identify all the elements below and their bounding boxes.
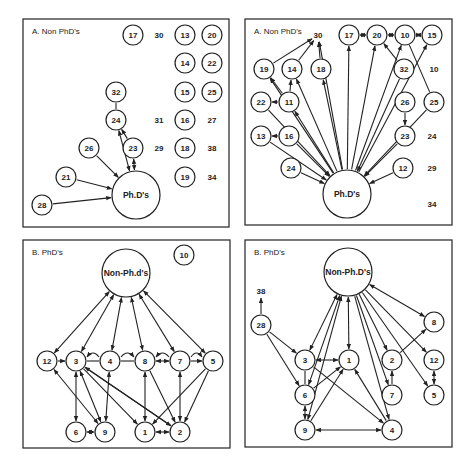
- node-25: 25: [424, 92, 444, 112]
- edge-32-20: [384, 44, 397, 61]
- edge-4-8: [121, 353, 134, 357]
- edge-2-3: [85, 367, 171, 426]
- isolate-label-30: 30: [155, 31, 164, 40]
- node-label: 19: [260, 65, 269, 74]
- panel-a-left: A. Non PhD'sPh.D's1713201422321525241626…: [23, 19, 229, 227]
- isolate-label-34: 34: [428, 200, 437, 209]
- panel-b-right: B. PhD'sNon-Ph.D's288312126759438: [245, 240, 452, 447]
- node-12: 12: [393, 158, 413, 178]
- edge-26-PhDs: [97, 156, 119, 178]
- node-label: 23: [129, 144, 138, 153]
- edge-NonPhDs-3: [81, 295, 113, 352]
- node-20: 20: [367, 25, 387, 45]
- node-14: 14: [282, 59, 302, 79]
- node-label: 6: [74, 428, 79, 437]
- node-label: 7: [178, 357, 183, 366]
- edge-NonPhDs-5: [144, 291, 206, 353]
- hub-node: Non-Ph.D's: [324, 248, 372, 296]
- panel-title: B. PhD's: [254, 248, 285, 257]
- node-10: 10: [395, 25, 415, 45]
- node-label: 20: [208, 31, 217, 40]
- node-label: 28: [38, 201, 47, 210]
- node-label: 4: [108, 357, 113, 366]
- node-24: 24: [281, 158, 301, 178]
- node-17: 17: [339, 25, 359, 45]
- edge-NonPhDs-12: [54, 292, 109, 353]
- edge-12-PhDs: [370, 173, 393, 184]
- node-label: 9: [303, 426, 308, 435]
- node-label: 16: [181, 116, 190, 125]
- node-4: 4: [100, 351, 120, 371]
- edge-PhDs-19: [270, 78, 333, 173]
- edge-PhDs-14: [296, 79, 337, 171]
- node-label: 24: [287, 164, 296, 173]
- node-13: 13: [251, 126, 271, 146]
- edge-32-PhDs: [357, 79, 399, 171]
- node-label: 25: [208, 88, 217, 97]
- node-label: 9: [103, 428, 108, 437]
- node-label: 6: [303, 391, 308, 400]
- node-6: 6: [66, 422, 86, 442]
- node-11: 11: [279, 92, 299, 112]
- node-label: 15: [181, 88, 190, 97]
- node-label: 19: [181, 173, 190, 182]
- node-12: 12: [424, 350, 444, 370]
- node-label: 18: [317, 65, 326, 74]
- node-18: 18: [175, 138, 195, 158]
- edge-NonPhDs-4: [112, 298, 122, 351]
- edge-NonPhDs-8: [131, 297, 142, 350]
- edge-PhDs-10: [356, 45, 402, 170]
- node-label: 16: [285, 132, 294, 141]
- node-label: 22: [208, 59, 217, 68]
- node-label: 20: [373, 31, 382, 40]
- isolate-label-38: 38: [257, 287, 266, 296]
- sociogram-figure: A. Non PhD'sPh.D's1713201422321525241626…: [0, 0, 475, 468]
- edge-3-4: [314, 367, 384, 423]
- node-26: 26: [79, 138, 99, 158]
- isolate-label-31: 31: [155, 116, 164, 125]
- isolate-label-30: 30: [314, 31, 323, 40]
- node-label: 23: [401, 132, 410, 141]
- node-14: 14: [175, 53, 195, 73]
- node-label: 26: [85, 144, 94, 153]
- node-16: 16: [175, 110, 195, 130]
- panel-a-right: A. Non PhD'sPh.D's1720101519141832221126…: [245, 19, 452, 225]
- node-22: 22: [251, 92, 271, 112]
- node-label: 14: [288, 65, 297, 74]
- node-label: 15: [428, 31, 437, 40]
- node-label: 2: [390, 356, 395, 365]
- node-label: 10: [401, 31, 410, 40]
- node-9: 9: [295, 420, 315, 440]
- node-7: 7: [382, 385, 402, 405]
- node-label: 25: [430, 98, 439, 107]
- node-23: 23: [123, 138, 143, 158]
- isolate-label-29: 29: [155, 144, 164, 153]
- node-16: 16: [279, 126, 299, 146]
- edge-21-PhDs: [77, 180, 112, 189]
- node-15: 15: [422, 25, 442, 45]
- edge-11-19: [271, 78, 283, 93]
- edge-7-8: [156, 353, 169, 357]
- isolate-label-29: 29: [428, 164, 437, 173]
- node-label: 1: [143, 428, 148, 437]
- node-21: 21: [56, 167, 76, 187]
- node-label: 21: [62, 173, 71, 182]
- node-32: 32: [106, 82, 126, 102]
- node-15: 15: [175, 82, 195, 102]
- node-label: 5: [211, 357, 216, 366]
- edge-NonPhDs-1: [348, 297, 349, 349]
- node-label: 26: [401, 98, 410, 107]
- node-26: 26: [395, 92, 415, 112]
- isolate-label-38: 38: [208, 144, 217, 153]
- node-22: 22: [202, 53, 222, 73]
- node-4: 4: [382, 420, 402, 440]
- node-5: 5: [203, 351, 223, 371]
- node-1: 1: [135, 422, 155, 442]
- isolate-label-27: 27: [208, 116, 217, 125]
- node-label: 22: [257, 98, 266, 107]
- node-5: 5: [424, 385, 444, 405]
- node-7: 7: [170, 351, 190, 371]
- node-label: 5: [432, 391, 437, 400]
- edge-28-3: [270, 332, 297, 353]
- node-label: 11: [285, 98, 294, 107]
